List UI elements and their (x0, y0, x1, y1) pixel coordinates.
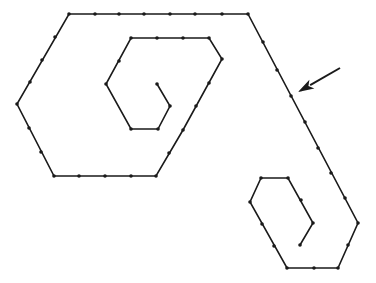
step-dot (285, 266, 289, 270)
step-dot (260, 222, 264, 226)
step-dot (93, 12, 97, 16)
spiral-path (17, 14, 358, 268)
step-dot (346, 243, 350, 247)
step-dot (142, 12, 146, 16)
step-dot (303, 120, 307, 124)
step-dot (39, 150, 43, 154)
step-dot (53, 35, 57, 39)
step-dot (336, 266, 340, 270)
step-dot (27, 126, 31, 130)
step-dot (167, 151, 171, 155)
step-dot (207, 81, 211, 85)
step-dot (155, 36, 159, 40)
step-dot (154, 174, 158, 178)
step-dot (289, 94, 293, 98)
spiral-diagram (0, 0, 376, 283)
step-dot (181, 36, 185, 40)
step-dot (220, 12, 224, 16)
step-dot (312, 266, 316, 270)
step-dot (117, 59, 121, 63)
step-dot (129, 127, 133, 131)
step-dot (181, 128, 185, 132)
step-dot (299, 198, 303, 202)
step-dot (275, 68, 279, 72)
step-dot (104, 82, 108, 86)
step-dot (311, 221, 315, 225)
step-dot (168, 104, 172, 108)
step-dot (259, 176, 263, 180)
step-dot (52, 174, 56, 178)
step-dot (272, 244, 276, 248)
step-dot (356, 221, 360, 225)
step-dot (286, 176, 290, 180)
step-dot (261, 40, 265, 44)
step-dot (156, 127, 160, 131)
arrow-head-icon (298, 80, 314, 92)
step-dot (194, 104, 198, 108)
step-dot (193, 12, 197, 16)
step-dot (77, 174, 81, 178)
arrow-shaft (310, 68, 340, 85)
step-dot (207, 36, 211, 40)
step-dot (67, 12, 71, 16)
step-dot (117, 12, 121, 16)
step-dot (40, 58, 44, 62)
step-dot (103, 174, 107, 178)
step-dot (28, 80, 32, 84)
step-dot (329, 171, 333, 175)
step-dot (15, 102, 19, 106)
step-dot (168, 12, 172, 16)
pointer-arrow (298, 68, 340, 92)
step-dot (248, 200, 252, 204)
step-dot (343, 196, 347, 200)
step-dot (246, 12, 250, 16)
step-dot (155, 82, 159, 86)
step-dot (129, 174, 133, 178)
step-dot (129, 36, 133, 40)
step-dot (298, 243, 302, 247)
step-dot (316, 146, 320, 150)
step-dot (220, 57, 224, 61)
